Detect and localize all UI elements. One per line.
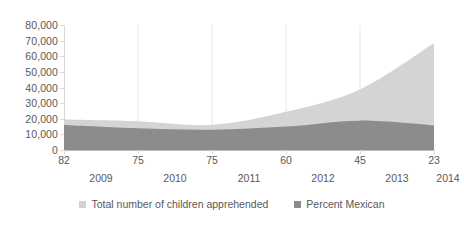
y-axis-tick-label: 30,000 bbox=[0, 97, 58, 109]
legend-item-mexican[interactable]: Percent Mexican bbox=[294, 198, 384, 211]
x-axis-percent-label: 75 bbox=[118, 154, 158, 167]
legend-label-total: Total number of children apprehended bbox=[91, 198, 268, 211]
y-axis-tick-label: 60,000 bbox=[0, 50, 58, 62]
y-axis-tick-label: 70,000 bbox=[0, 35, 58, 47]
x-axis-year-label: 2014 bbox=[418, 172, 464, 185]
legend-swatch-total bbox=[79, 201, 86, 208]
x-axis: 827575604523200920102011201220132014 bbox=[64, 150, 434, 192]
y-axis-tick-label: 10,000 bbox=[0, 128, 58, 140]
y-axis-tick-label: 80,000 bbox=[0, 19, 58, 31]
legend-item-total[interactable]: Total number of children apprehended bbox=[79, 198, 268, 211]
x-axis-year-label: 2012 bbox=[293, 172, 353, 185]
legend-label-mexican: Percent Mexican bbox=[306, 198, 384, 211]
x-axis-percent-label: 82 bbox=[44, 154, 84, 167]
x-axis-year-label: 2009 bbox=[71, 172, 131, 185]
x-axis-percent-label: 45 bbox=[340, 154, 380, 167]
y-axis-tick-label: 40,000 bbox=[0, 82, 58, 94]
chart-legend: Total number of children apprehended Per… bbox=[0, 198, 464, 211]
plot-area bbox=[64, 25, 434, 150]
area-chart: 010,00020,00030,00040,00050,00060,00070,… bbox=[0, 0, 464, 226]
y-axis: 010,00020,00030,00040,00050,00060,00070,… bbox=[0, 17, 58, 158]
y-axis-tick-label: 50,000 bbox=[0, 66, 58, 78]
series-svg bbox=[64, 25, 434, 150]
y-axis-tick-label: 20,000 bbox=[0, 113, 58, 125]
x-axis-year-label: 2011 bbox=[219, 172, 279, 185]
x-axis-percent-label: 23 bbox=[414, 154, 454, 167]
x-axis-percent-label: 60 bbox=[266, 154, 306, 167]
x-axis-percent-label: 75 bbox=[192, 154, 232, 167]
x-axis-year-label: 2010 bbox=[145, 172, 205, 185]
legend-swatch-mexican bbox=[294, 201, 301, 208]
